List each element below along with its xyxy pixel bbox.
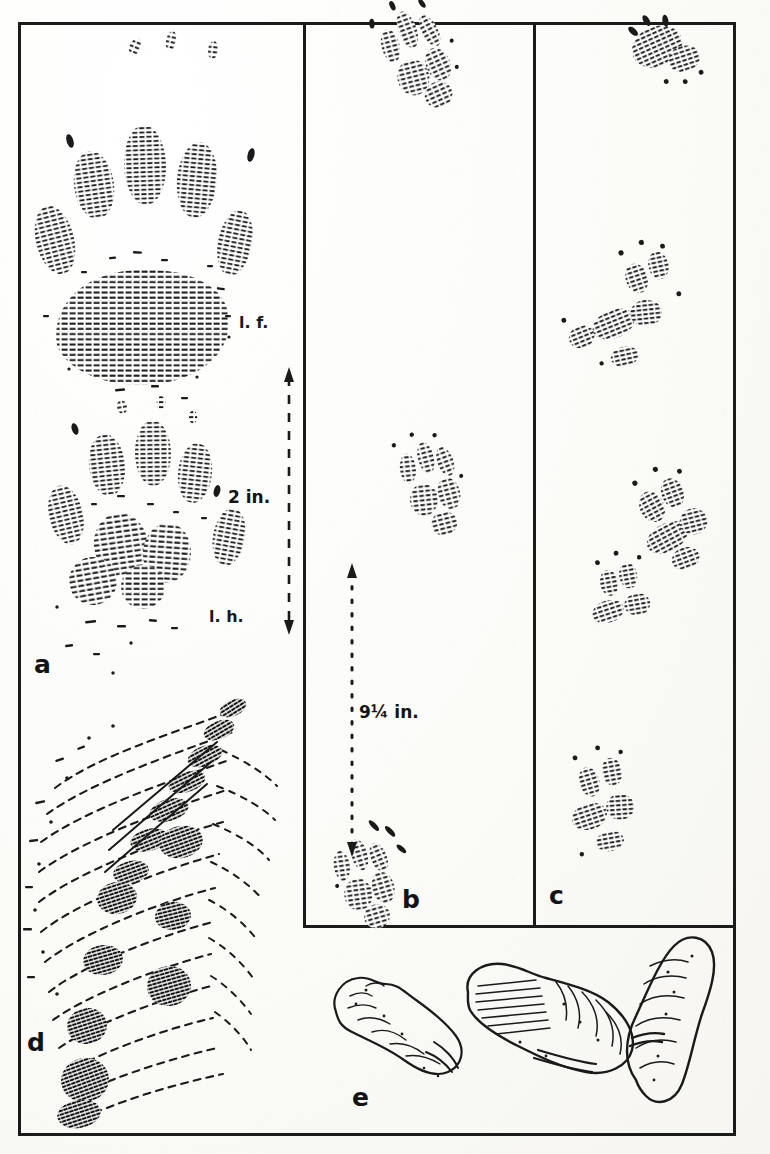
panel-label-a: a — [34, 652, 51, 677]
track-group-c1 — [620, 2, 707, 97]
panel-label-e: e — [352, 1085, 369, 1110]
measure-arrow-2in — [284, 367, 294, 635]
panel-b-artwork — [306, 25, 533, 925]
label-left-hind: l. h. — [209, 607, 244, 626]
panel-d: d — [21, 690, 303, 1133]
panel-d-artwork — [21, 690, 303, 1133]
mud-ridge-contours — [39, 710, 235, 1118]
panel-label-b: b — [402, 887, 420, 912]
track-group-c5 — [558, 741, 642, 858]
panel-c-artwork — [536, 25, 733, 925]
label-left-fore: l. f. — [239, 313, 268, 332]
panel-divider-horizontal — [303, 925, 733, 928]
scat-specimen-2 — [467, 964, 632, 1073]
panel-e: e — [306, 930, 733, 1133]
mud-speckle-left — [23, 724, 115, 1036]
panel-c: c — [536, 25, 733, 925]
panel-a: l. f. l. h. 2 in. a — [21, 25, 303, 685]
panel-label-d: d — [27, 1030, 45, 1055]
track-fleck-group-top — [127, 30, 219, 59]
paw-print-left-hind — [43, 420, 250, 675]
track-group-b3 — [320, 811, 426, 936]
mud-ridge-right — [209, 750, 277, 1050]
panel-label-c: c — [549, 883, 564, 908]
track-group-c2 — [548, 234, 693, 377]
paw-print-left-fore — [28, 124, 258, 423]
track-group-c3 — [621, 456, 723, 581]
measure-arrow-9-25in — [347, 563, 357, 857]
scat-specimen-3 — [627, 937, 714, 1101]
measure-label-2in: 2 in. — [228, 487, 270, 507]
track-group-b2 — [390, 423, 477, 543]
track-group-c4 — [581, 547, 653, 628]
panel-a-artwork — [21, 25, 303, 685]
panel-b: 9¼ in. b — [306, 25, 533, 925]
scat-specimen-1 — [334, 978, 461, 1078]
panel-e-artwork — [306, 930, 733, 1133]
track-plate: l. f. l. h. 2 in. a — [0, 0, 770, 1154]
measure-label-9-25in: 9¼ in. — [359, 702, 419, 722]
track-group-b1 — [363, 0, 477, 121]
